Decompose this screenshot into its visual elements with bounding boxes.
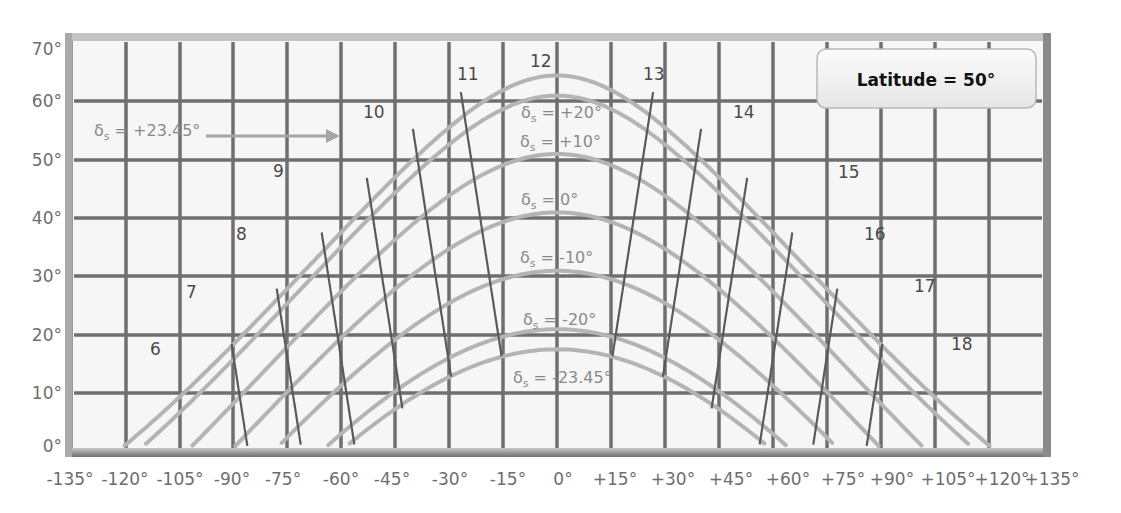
x-tick-12: +45° — [709, 469, 753, 489]
latitude-label-box: Latitude = 50° — [817, 49, 1036, 108]
x-tick-8: -15° — [490, 469, 526, 489]
hour-label-9: 9 — [273, 161, 284, 181]
latitude-label: Latitude = 50° — [857, 70, 995, 90]
hour-label-11: 11 — [457, 64, 479, 84]
x-tick-6: -45° — [374, 469, 410, 489]
hour-label-15: 15 — [838, 162, 860, 182]
x-tick-13: +60° — [766, 469, 810, 489]
x-tick-18: +135° — [1024, 469, 1079, 489]
x-tick-10: +15° — [593, 469, 637, 489]
x-tick-14: +75° — [821, 469, 865, 489]
x-tick-3: -90° — [214, 469, 250, 489]
y-tick-20: 20° — [32, 325, 62, 345]
hour-label-17: 17 — [914, 276, 936, 296]
hour-label-12: 12 — [530, 51, 552, 71]
hour-label-10: 10 — [363, 102, 385, 122]
x-tick-11: +30° — [651, 469, 695, 489]
y-tick-70: 70° — [32, 39, 62, 59]
decl-label-minus-23-45: δs = -23.45° — [513, 368, 612, 390]
sun-path-chart: Latitude = 50° δs = +23.45° δs = +20° δs… — [0, 0, 1121, 513]
x-tick-5: -60° — [323, 469, 359, 489]
x-tick-17: +120° — [974, 469, 1029, 489]
x-tick-9: 0° — [553, 469, 572, 489]
x-tick-16: +105° — [920, 469, 975, 489]
y-axis: 0° 10° 20° 30° 40° 50° 60° 70° — [32, 39, 62, 456]
x-tick-2: -105° — [156, 469, 203, 489]
hour-label-18: 18 — [951, 334, 973, 354]
hour-label-7: 7 — [186, 282, 197, 302]
x-tick-15: +90° — [870, 469, 914, 489]
y-tick-50: 50° — [32, 150, 62, 170]
y-tick-30: 30° — [32, 266, 62, 286]
y-tick-0: 0° — [43, 436, 62, 456]
y-tick-40: 40° — [32, 208, 62, 228]
x-tick-1: -120° — [101, 469, 148, 489]
x-axis: -135° -120° -105° -90° -75° -60° -45° -3… — [46, 469, 1079, 489]
y-tick-60: 60° — [32, 91, 62, 111]
hour-label-14: 14 — [733, 102, 755, 122]
hour-label-6: 6 — [150, 339, 161, 359]
x-tick-4: -75° — [265, 469, 301, 489]
hour-label-8: 8 — [236, 224, 247, 244]
x-tick-0: -135° — [46, 469, 93, 489]
y-tick-10: 10° — [32, 383, 62, 403]
hour-label-13: 13 — [643, 64, 665, 84]
hour-label-16: 16 — [864, 224, 886, 244]
decl-label-zero: δs = 0° — [521, 190, 578, 212]
x-tick-7: -30° — [432, 469, 468, 489]
decl-label-plus-23-45: δs = +23.45° — [94, 121, 200, 143]
